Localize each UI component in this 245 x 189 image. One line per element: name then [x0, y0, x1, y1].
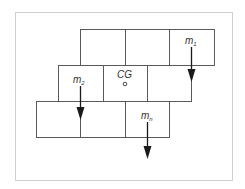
outer-frame — [16, 13, 233, 181]
mass-blocks-diagram: m1 m2 mn CG — [0, 0, 245, 189]
cg-label: CG — [117, 69, 132, 80]
cg-marker-icon — [123, 82, 127, 86]
